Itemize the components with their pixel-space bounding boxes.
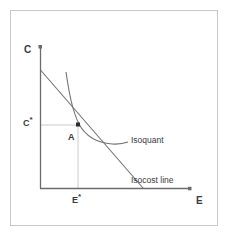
x-axis-label: E: [196, 196, 203, 206]
isoquant-curve: [66, 72, 128, 144]
y-axis-tick-label-c-star: C*: [23, 119, 33, 128]
isoquant-label: Isoquant: [131, 136, 164, 145]
isocost-line: [41, 70, 144, 188]
tangency-point-marker: [76, 123, 80, 127]
figure-root: C E C* E* A Isoquant Isocost line: [0, 0, 230, 237]
isocost-label: Isocost line: [131, 176, 174, 185]
x-axis-tick-label-e-star: E*: [72, 196, 81, 205]
x-axis-arrow-cap: [188, 187, 192, 191]
y-axis-label: C: [24, 45, 31, 55]
tangency-point-label: A: [68, 133, 75, 142]
c-star-asterisk: *: [30, 115, 33, 124]
e-star-asterisk: *: [78, 192, 81, 201]
y-axis-arrow-cap: [39, 45, 43, 49]
